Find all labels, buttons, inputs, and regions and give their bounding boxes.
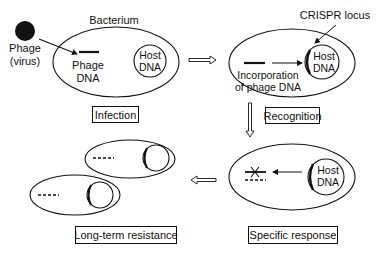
host-dna-label-2: DNA (139, 61, 161, 73)
phage-dna-label-2: DNA (76, 72, 100, 84)
hollow-arrow-left-icon (191, 176, 216, 184)
host-dna-label-2: DNA (313, 62, 335, 74)
hollow-arrow-right-icon (189, 56, 216, 64)
host-dna-label: Host (317, 164, 339, 176)
crispr-locus-mark (307, 50, 310, 74)
phage-sublabel: (virus) (10, 55, 41, 67)
flow-arrow-down (246, 103, 254, 137)
crispr-locus-label: CRISPR locus (300, 9, 371, 21)
crispr-diagram: Phage (virus) Bacterium Phage DNA Host D… (0, 0, 378, 253)
incorporation-label: Incorporation (237, 69, 298, 81)
phage-label: Phage (9, 42, 41, 54)
stage-long-term-resistance: Long-term resistance (30, 140, 178, 244)
stage-infection: Bacterium Phage DNA Host DNA Infection (53, 14, 179, 123)
phage-particle-icon (15, 21, 35, 41)
injection-arrow (39, 39, 77, 54)
crispr-locus-mark-lower (89, 185, 92, 205)
crispr-locus-mark (310, 164, 313, 190)
phage: Phage (virus) (9, 21, 77, 67)
host-dna-label: Host (313, 50, 335, 62)
flow-arrow-right (189, 56, 216, 64)
specific-response-caption: Specific response (250, 229, 337, 241)
hollow-arrow-down-icon (246, 103, 254, 137)
stage-specific-response: Host DNA Specific response (229, 144, 355, 244)
infection-caption: Infection (95, 109, 137, 121)
bacterium-label: Bacterium (89, 14, 139, 26)
phage-dna-label: Phage (72, 59, 104, 71)
long-term-resistance-caption: Long-term resistance (74, 229, 177, 241)
crispr-locus-mark-upper (145, 148, 148, 168)
host-dna-label-2: DNA (317, 176, 339, 188)
host-dna-label: Host (139, 49, 161, 61)
recognition-caption: Recognition (263, 110, 321, 122)
incorporation-label-2: of phage DNA (235, 81, 301, 93)
flow-arrow-left (191, 176, 216, 184)
